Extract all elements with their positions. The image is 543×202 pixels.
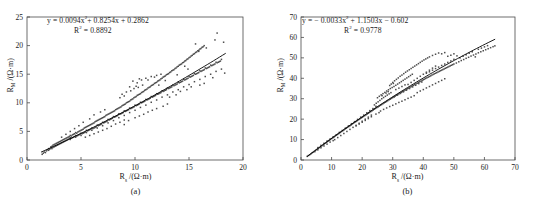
x-tick-label: 0	[25, 163, 29, 172]
y-tick-label: 5	[19, 127, 23, 136]
x-tick-label: 10	[328, 163, 336, 172]
r-squared-b: R2 = 0.9778	[344, 25, 382, 35]
x-tick-label: 70	[511, 163, 519, 172]
x-tick-label: 50	[450, 163, 458, 172]
y-tick-label: 40	[289, 74, 297, 83]
y-tick-label: 10	[289, 135, 297, 144]
panel-caption-b: (b)	[272, 186, 543, 196]
regression-equation-a: y = 0.0094x2+ 0.8254x + 0.2862	[47, 15, 149, 25]
x-axis-label-b: Rs /(Ω·m)	[272, 172, 543, 183]
y-axis-label-b: RM /(Ω·m)	[276, 40, 287, 110]
x-tick-label: 60	[481, 163, 489, 172]
y-tick-label: 0	[19, 156, 23, 165]
x-tick-label: 30	[389, 163, 397, 172]
scatter-points	[41, 32, 225, 155]
x-tick-label: 40	[419, 163, 427, 172]
x-tick-label: 20	[239, 163, 247, 172]
y-tick-label: 0	[293, 156, 297, 165]
y-tick-label: 30	[289, 94, 297, 103]
r-squared-a: R2 = 0.8892	[74, 25, 112, 35]
y-tick-label: 50	[289, 53, 297, 62]
y-tick-label: 70	[289, 13, 297, 22]
x-tick-label: 20	[358, 163, 366, 172]
y-tick-label: 20	[15, 41, 23, 50]
chart-panel-b: 010203040506070010203040506070 y = − 0.0…	[272, 0, 543, 202]
y-tick-label: 25	[15, 13, 23, 22]
x-tick-label: 0	[299, 163, 303, 172]
x-axis-label-a: Rs /(Ω·m)	[0, 172, 271, 183]
scatter-points	[306, 45, 495, 157]
x-tick-label: 10	[131, 163, 139, 172]
chart-panel-a: 051015200510152025 y = 0.0094x2+ 0.8254x…	[0, 0, 271, 202]
regression-equation-b: y = − 0.0033x2 + 1.1503x − 0.602	[302, 15, 408, 25]
x-tick-label: 5	[79, 163, 83, 172]
panel-caption-a: (a)	[0, 186, 271, 196]
y-tick-label: 10	[15, 98, 23, 107]
figure-container: 051015200510152025 y = 0.0094x2+ 0.8254x…	[0, 0, 543, 202]
x-tick-label: 15	[185, 163, 193, 172]
y-tick-label: 15	[15, 70, 23, 79]
y-axis-label-a: RM /(Ω·m)	[6, 40, 17, 110]
y-tick-label: 60	[289, 33, 297, 42]
y-tick-label: 20	[289, 115, 297, 124]
plot-frame	[27, 17, 243, 160]
